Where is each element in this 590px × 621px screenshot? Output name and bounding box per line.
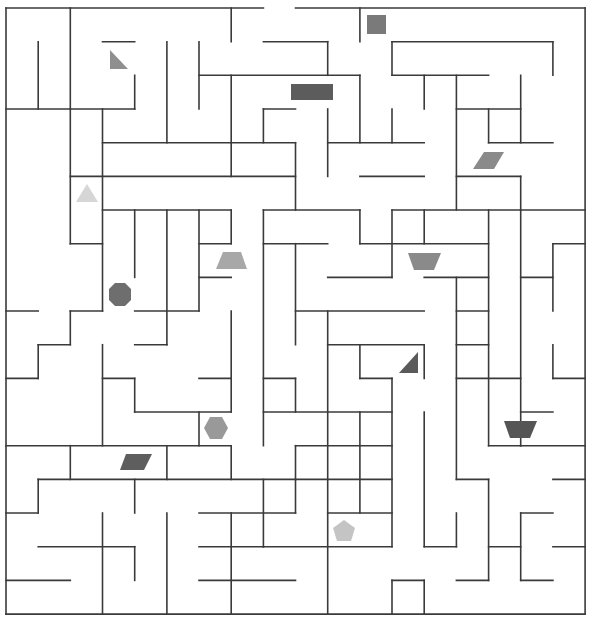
trapezoid-left-icon bbox=[216, 252, 247, 269]
parallelogram-top-right-icon bbox=[473, 152, 504, 169]
maze-board bbox=[0, 0, 590, 621]
triangle-right-icon bbox=[110, 50, 128, 69]
triangle-right-mid-icon bbox=[399, 352, 418, 373]
trapezoid-inverted-icon bbox=[408, 253, 441, 270]
square-icon bbox=[367, 15, 386, 34]
rectangle-icon bbox=[291, 84, 333, 100]
pentagon-icon bbox=[333, 520, 355, 541]
octagon-icon bbox=[109, 283, 131, 306]
triangle-up-icon bbox=[76, 184, 98, 202]
hexagon-icon bbox=[204, 417, 228, 439]
trapezoid-dark-icon bbox=[504, 421, 537, 438]
parallelogram-dark-icon bbox=[120, 454, 152, 470]
